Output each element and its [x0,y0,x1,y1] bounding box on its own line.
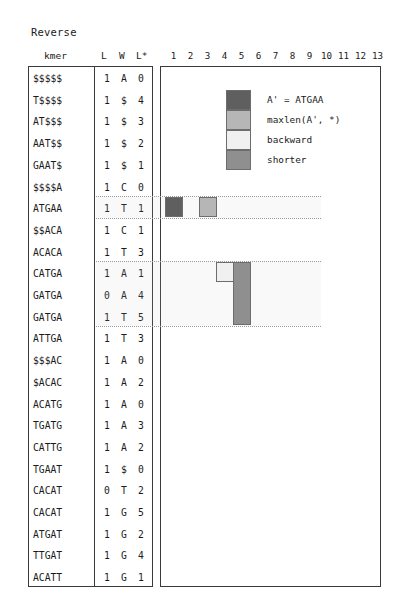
legend-label-shorter: shorter [267,150,307,170]
column-header-w: W [119,50,125,61]
chart-column-header: 1 [165,50,182,61]
chart-column-header: 2 [182,50,199,61]
chart-column-header: 10 [318,50,335,61]
chart-column-header: 8 [284,50,301,61]
legend-swatch-shorter [226,150,251,170]
column-header-kmer: kmer [44,50,67,61]
legend-swatch-current [226,90,251,110]
guide-line [96,218,321,219]
cell-w: G [119,565,129,590]
cell-lstar: 1 [136,565,146,590]
chart-column-header: 9 [301,50,318,61]
chart-column-header: 7 [267,50,284,61]
chart-cell-current [165,197,183,217]
chart-column-header: 13 [369,50,386,61]
column-header-lstar: L* [136,50,147,61]
chart-cell-shorter [233,262,251,325]
guide-line [96,326,321,327]
cell-l: 1 [102,565,112,590]
chart-column-header: 4 [216,50,233,61]
chart-cell-maxlen [199,197,217,217]
chart-column-header: 12 [352,50,369,61]
figure-root: Reverse kmer L W L* $$$$$1A0T$$$$1$4AT$$… [0,0,407,605]
legend-swatch-maxlen [226,110,251,130]
legend-label-backward: backward [267,130,312,150]
legend-label-maxlen: maxlen(A', *) [267,110,340,130]
chart-cell-backward [216,262,234,282]
chart-column-header: 3 [199,50,216,61]
table-row: ACATT1G1 [28,565,153,590]
chart-column-header: 5 [233,50,250,61]
chart-column-header: 11 [335,50,352,61]
legend-label-current: A' = ATGAA [267,90,323,110]
chart-column-header: 6 [250,50,267,61]
figure-title: Reverse [31,26,77,38]
legend-swatch-backward [226,130,251,150]
column-header-l: L [101,50,107,61]
guide-band [96,261,321,326]
cell-kmer: ACATT [33,565,62,590]
